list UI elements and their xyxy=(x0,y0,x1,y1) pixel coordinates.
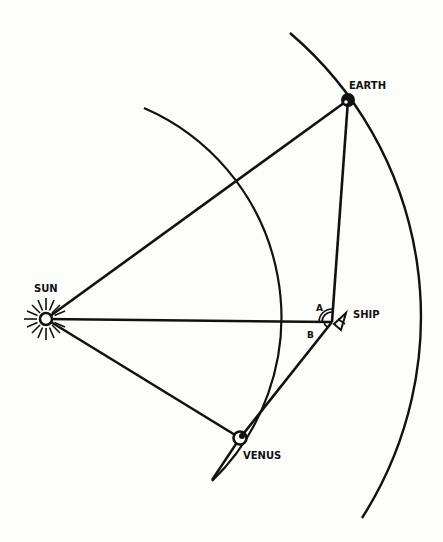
venus-icon xyxy=(234,432,247,445)
earth-label: EARTH xyxy=(349,80,386,91)
angle-b-label: B xyxy=(307,330,314,340)
line-ship-venus xyxy=(240,322,332,438)
diagram-canvas: SUN EARTH VENUS SHIP A B xyxy=(0,0,443,542)
earth-orbit xyxy=(290,33,421,518)
line-ship-earth xyxy=(332,100,348,322)
angle-a-label: A xyxy=(316,303,323,313)
sun-label: SUN xyxy=(34,283,58,294)
ship-label: SHIP xyxy=(353,309,380,320)
line-sun-ship xyxy=(46,319,332,322)
earth-icon xyxy=(341,93,355,107)
venus-label: VENUS xyxy=(243,450,281,461)
line-sun-earth xyxy=(46,100,348,319)
line-sun-venus xyxy=(46,319,240,438)
